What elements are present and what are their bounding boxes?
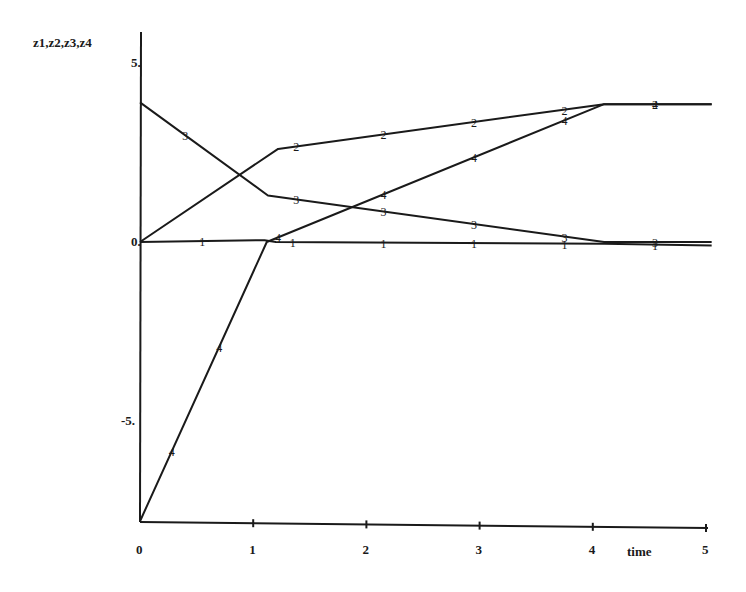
series-marker-z2: 2 xyxy=(471,116,477,130)
y-axis xyxy=(140,32,141,522)
series-marker-z4: 4 xyxy=(562,114,568,128)
x-axis-title: time xyxy=(627,544,652,559)
series-marker-z4: 4 xyxy=(652,98,658,112)
line-chart: z1,z2,z3,z4 time 012345 5.0.-5. 11111122… xyxy=(0,0,746,592)
x-tick-label: 0 xyxy=(136,542,143,557)
series-line-z2 xyxy=(140,104,712,242)
series-marker-z2: 2 xyxy=(293,140,299,154)
y-ticks: 5.0.-5. xyxy=(121,55,141,428)
x-tick-label: 4 xyxy=(589,542,596,557)
x-tick-label: 3 xyxy=(476,542,483,557)
series-marker-z3: 3 xyxy=(471,218,477,232)
series-marker-z4: 4 xyxy=(380,188,386,202)
x-tick-label: 1 xyxy=(249,542,256,557)
axes xyxy=(140,32,708,528)
y-tick-label: 0. xyxy=(131,234,141,249)
series-marker-z3: 3 xyxy=(562,231,568,245)
series-line-z3 xyxy=(140,102,712,242)
series-marker-z4: 4 xyxy=(471,151,477,165)
series-marker-z4: 4 xyxy=(169,445,175,459)
series-marker-z1: 1 xyxy=(199,235,205,249)
series-marker-z1: 1 xyxy=(290,236,296,250)
y-tick-label: 5. xyxy=(131,55,141,70)
y-axis-title: z1,z2,z3,z4 xyxy=(33,35,92,50)
y-tick-label: -5. xyxy=(121,413,135,428)
series-marker-z3: 3 xyxy=(652,236,658,250)
series-marker-z3: 3 xyxy=(182,129,188,143)
series-marker-z3: 3 xyxy=(380,205,386,219)
series-marker-z2: 2 xyxy=(380,128,386,142)
x-tick-label: 5 xyxy=(702,542,709,557)
series-marker-z4: 4 xyxy=(275,231,281,245)
series-line-z4 xyxy=(140,104,712,521)
x-tick-label: 2 xyxy=(362,542,369,557)
series-marker-z3: 3 xyxy=(293,193,299,207)
series-marker-z4: 4 xyxy=(216,341,222,355)
series-marker-z1: 1 xyxy=(471,237,477,251)
series-group: 111111222223333334444444 xyxy=(140,98,712,521)
x-axis xyxy=(140,522,708,528)
series-marker-z1: 1 xyxy=(380,237,386,251)
